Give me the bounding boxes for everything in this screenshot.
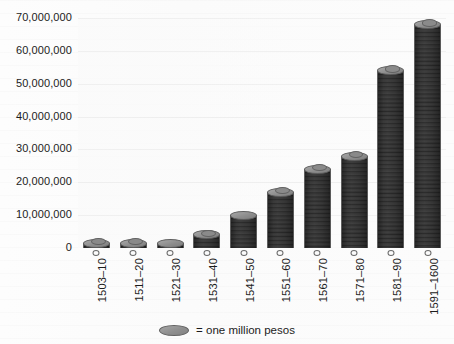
x-tick-mark bbox=[240, 250, 247, 256]
coin-stack-body bbox=[267, 192, 294, 248]
coin-stack-notch bbox=[275, 187, 290, 194]
x-tick-label: 1541–50 bbox=[244, 258, 256, 302]
x-tick-label: 1531–40 bbox=[207, 258, 219, 302]
y-tick-label: 20,000,000 bbox=[0, 175, 72, 187]
coin-stack-notch bbox=[312, 164, 327, 171]
coin-stack-notch bbox=[201, 230, 216, 237]
x-tick-label: 1591–1600 bbox=[428, 258, 440, 315]
x-tick-label: 1561–70 bbox=[317, 258, 329, 302]
bar-coin-stack bbox=[230, 206, 257, 248]
y-axis: 010,000,00020,000,00030,000,00040,000,00… bbox=[0, 0, 74, 344]
x-tick-label: 1511–20 bbox=[133, 258, 145, 301]
y-tick-label: 10,000,000 bbox=[0, 208, 72, 220]
bars-layer bbox=[78, 18, 446, 248]
coin-stack bbox=[341, 147, 368, 248]
x-tick-mark bbox=[130, 250, 137, 256]
bar-coin-stack bbox=[120, 234, 147, 248]
y-tick-label: 30,000,000 bbox=[0, 142, 72, 154]
coin-stack-body bbox=[341, 156, 368, 248]
coin-stack bbox=[377, 62, 404, 248]
x-axis: 1503–101511–201521–301531–401541–501551–… bbox=[78, 248, 446, 318]
bar-coin-stack bbox=[341, 147, 368, 248]
coin-stack-body bbox=[230, 215, 257, 248]
coin-stack bbox=[157, 234, 184, 248]
x-tick-label: 1581–90 bbox=[391, 258, 403, 302]
coin-stack-bar-chart: 010,000,00020,000,00030,000,00040,000,00… bbox=[0, 0, 454, 344]
coin-stack bbox=[83, 234, 110, 248]
x-tick-mark bbox=[93, 250, 100, 256]
coin-stack-notch bbox=[128, 238, 143, 245]
x-tick-label: 1503–10 bbox=[96, 258, 108, 302]
coin-stack-notch bbox=[385, 65, 400, 72]
x-tick-label: 1571–80 bbox=[354, 258, 366, 302]
bar-coin-stack bbox=[304, 160, 331, 248]
bar-coin-stack bbox=[193, 226, 220, 248]
coin-stack-notch bbox=[91, 238, 106, 245]
y-tick-label: 70,000,000 bbox=[0, 11, 72, 23]
x-tick-mark bbox=[314, 250, 321, 256]
y-tick-label: 40,000,000 bbox=[0, 110, 72, 122]
bar-coin-stack bbox=[157, 234, 184, 248]
x-tick-mark bbox=[277, 250, 284, 256]
x-tick-mark bbox=[203, 250, 210, 256]
coin-stack bbox=[120, 234, 147, 248]
coin-stack-body bbox=[377, 71, 404, 248]
x-tick-mark bbox=[424, 250, 431, 256]
x-tick-label: 1551–60 bbox=[280, 258, 292, 302]
x-tick-mark bbox=[387, 250, 394, 256]
coin-stack bbox=[193, 226, 220, 248]
coin-stack-body bbox=[414, 25, 441, 248]
bar-coin-stack bbox=[83, 234, 110, 248]
coin-stack bbox=[304, 160, 331, 248]
coin-icon bbox=[159, 325, 189, 336]
x-tick-mark bbox=[351, 250, 358, 256]
coin-stack-top bbox=[157, 239, 184, 248]
legend-label: = one million pesos bbox=[196, 324, 295, 336]
y-tick-label: 0 bbox=[0, 241, 72, 253]
y-tick-label: 50,000,000 bbox=[0, 77, 72, 89]
coin-stack bbox=[267, 183, 294, 248]
bar-coin-stack bbox=[377, 62, 404, 248]
x-tick-mark bbox=[167, 250, 174, 256]
coin-stack-body bbox=[304, 169, 331, 248]
chart-legend: = one million pesos bbox=[0, 316, 454, 344]
coin-stack-top bbox=[230, 211, 257, 220]
coin-stack bbox=[414, 16, 441, 248]
x-tick-label: 1521–30 bbox=[170, 258, 182, 302]
bar-coin-stack bbox=[267, 183, 294, 248]
bar-coin-stack bbox=[414, 16, 441, 248]
y-tick-label: 60,000,000 bbox=[0, 44, 72, 56]
coin-stack-notch bbox=[422, 19, 437, 26]
coin-stack bbox=[230, 206, 257, 248]
